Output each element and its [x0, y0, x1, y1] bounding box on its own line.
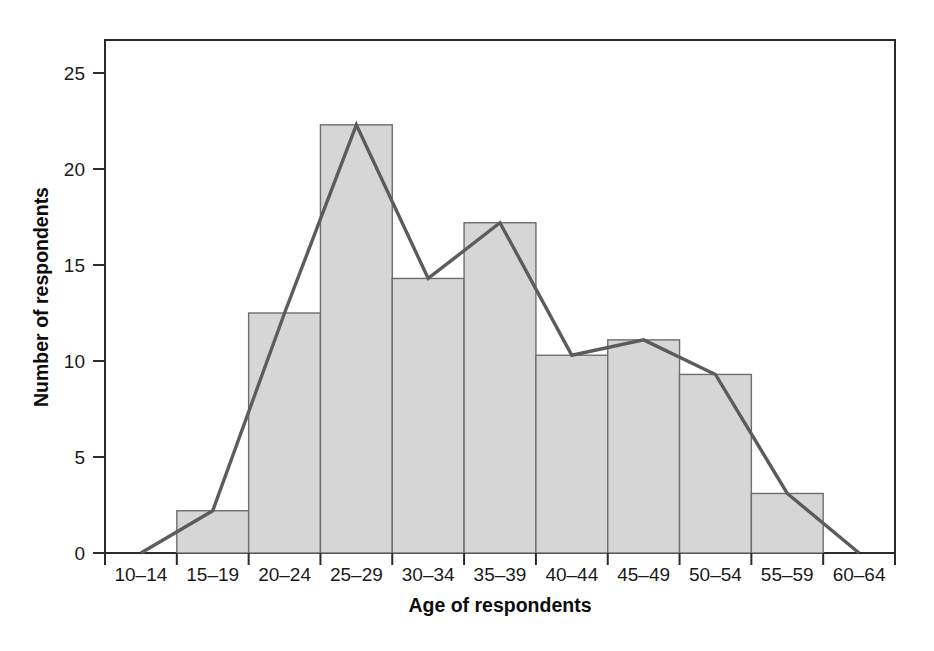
x-tick-label: 40–44	[545, 564, 598, 585]
y-tick-label-15: 15	[64, 255, 85, 276]
chart-figure: 0 5 10 15 20 25 Number of respondents 10…	[0, 0, 934, 651]
y-axis-ticks	[93, 73, 105, 553]
y-axis-title: Number of respondents	[30, 187, 52, 407]
y-tick-label-5: 5	[74, 447, 85, 468]
x-tick-label: 25–29	[330, 564, 383, 585]
x-tick-label: 15–19	[186, 564, 239, 585]
x-tick-label: 10–14	[114, 564, 167, 585]
x-tick-label: 45–49	[617, 564, 670, 585]
histogram-bar	[177, 511, 249, 553]
y-tick-label-25: 25	[64, 63, 85, 84]
histogram-chart: 0 5 10 15 20 25 Number of respondents 10…	[0, 0, 934, 651]
x-tick-label: 60–64	[833, 564, 886, 585]
histogram-bar	[751, 493, 823, 553]
x-tick-label: 50–54	[689, 564, 742, 585]
x-tick-label: 20–24	[258, 564, 311, 585]
histogram-bar	[249, 313, 321, 553]
histogram-bar	[392, 278, 464, 553]
y-axis-tick-labels: 0 5 10 15 20 25	[64, 63, 85, 564]
histogram-bar	[680, 374, 752, 553]
histogram-bar	[536, 355, 608, 553]
x-axis-tick-labels: 10–1415–1920–2425–2930–3435–3940–4445–49…	[114, 564, 885, 585]
x-tick-label: 30–34	[402, 564, 455, 585]
histogram-bar	[608, 340, 680, 553]
y-tick-label-10: 10	[64, 351, 85, 372]
x-tick-label: 55–59	[761, 564, 814, 585]
y-tick-label-20: 20	[64, 159, 85, 180]
x-tick-label: 35–39	[474, 564, 527, 585]
x-axis-title: Age of respondents	[408, 594, 591, 616]
y-tick-label-0: 0	[74, 543, 85, 564]
